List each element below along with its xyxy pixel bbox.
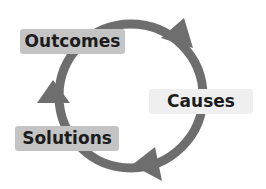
node-causes: Causes	[149, 89, 253, 114]
cycle-diagram: Outcomes Causes Solutions	[0, 0, 266, 189]
arrowhead-left-icon	[37, 80, 70, 103]
node-outcomes: Outcomes	[20, 29, 125, 54]
arrowhead-bottom-icon	[132, 147, 162, 181]
node-solutions: Solutions	[15, 126, 119, 151]
